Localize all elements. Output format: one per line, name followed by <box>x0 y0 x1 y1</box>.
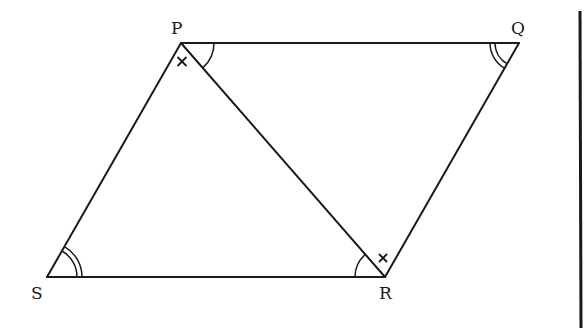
vertex-label-r: R <box>379 283 393 303</box>
margin-rule <box>580 11 581 328</box>
angle-arc-p <box>203 43 214 68</box>
vertex-label-p: P <box>171 18 182 38</box>
angle-arc-r <box>355 254 365 277</box>
edge-sp <box>47 43 181 277</box>
vertex-label-q: Q <box>511 18 525 38</box>
cross-mark-r <box>379 254 387 262</box>
diagonal-pr <box>181 43 385 277</box>
parallelogram-diagram: P Q R S <box>0 0 587 328</box>
cross-mark-p <box>178 57 187 66</box>
edge-qr <box>385 43 519 277</box>
angle-arc-q-outer <box>490 43 505 68</box>
vertex-label-s: S <box>31 283 43 303</box>
